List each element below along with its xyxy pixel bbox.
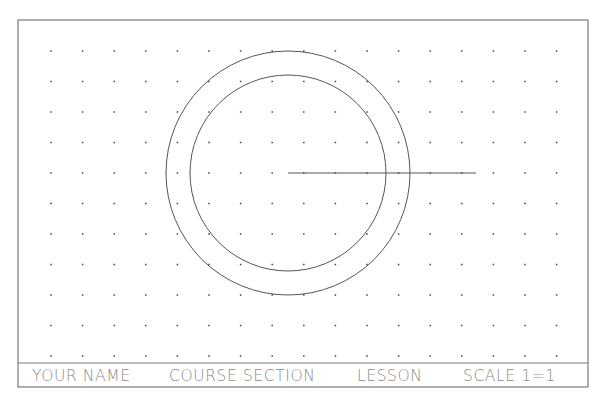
title-field-scale: SCALE 1=1 (463, 367, 556, 385)
grid-dot (524, 203, 526, 205)
grid-dot (271, 325, 273, 327)
grid-dot (556, 172, 558, 174)
grid-dot (82, 294, 84, 296)
grid-dot (524, 264, 526, 266)
grid-dot (398, 203, 400, 205)
grid-dot (556, 50, 558, 52)
grid-dot (493, 355, 495, 357)
grid-dot (145, 142, 147, 144)
grid-dot (145, 294, 147, 296)
grid-dot (177, 325, 179, 327)
grid-dot (303, 233, 305, 235)
grid-dot (50, 142, 52, 144)
grid-dot (271, 233, 273, 235)
grid-dot (240, 294, 242, 296)
grid-dot (429, 81, 431, 83)
grid-dot (335, 203, 337, 205)
grid-dot (303, 111, 305, 113)
grid-dot (50, 203, 52, 205)
grid-dot (461, 325, 463, 327)
grid-dot (493, 233, 495, 235)
grid-dot (524, 172, 526, 174)
grid-dot (177, 355, 179, 357)
grid-dot (113, 172, 115, 174)
grid-dot (50, 264, 52, 266)
grid-dot (335, 142, 337, 144)
grid-dot (556, 355, 558, 357)
grid-dot (524, 325, 526, 327)
grid-dot (366, 355, 368, 357)
grid-dot (177, 81, 179, 83)
grid-dot (335, 264, 337, 266)
grid-dot (113, 264, 115, 266)
grid-dot (50, 172, 52, 174)
grid-dot (145, 233, 147, 235)
grid-dot (398, 355, 400, 357)
grid-dot (145, 203, 147, 205)
grid-dot (208, 294, 210, 296)
grid-dot (145, 325, 147, 327)
grid-dot (556, 325, 558, 327)
grid-dot (556, 142, 558, 144)
grid-dot (493, 50, 495, 52)
grid-dot (493, 203, 495, 205)
grid-dot (208, 233, 210, 235)
grid-dot (113, 50, 115, 52)
grid-dot (177, 233, 179, 235)
grid-dot (50, 233, 52, 235)
grid-dot (240, 172, 242, 174)
grid-dot (429, 325, 431, 327)
grid-dot (335, 325, 337, 327)
grid-dot (493, 81, 495, 83)
grid-dot (335, 111, 337, 113)
grid-dot (240, 81, 242, 83)
grid-dot (461, 50, 463, 52)
grid-dot (82, 50, 84, 52)
grid-dot (208, 203, 210, 205)
grid-dot (493, 142, 495, 144)
grid-dot (177, 294, 179, 296)
grid-dot (177, 203, 179, 205)
grid-dot (50, 111, 52, 113)
grid-dot (429, 294, 431, 296)
grid-dot (208, 172, 210, 174)
grid-dot (398, 50, 400, 52)
grid-dot (177, 264, 179, 266)
grid-dot (398, 264, 400, 266)
grid-dot (335, 355, 337, 357)
grid-dot (366, 50, 368, 52)
grid-dot (177, 172, 179, 174)
grid-dot (366, 325, 368, 327)
grid-dot (113, 111, 115, 113)
grid-dot (493, 264, 495, 266)
grid-dot (177, 111, 179, 113)
grid-dot (524, 294, 526, 296)
sheet-border (18, 20, 588, 387)
grid-dot (493, 172, 495, 174)
grid-dot (208, 142, 210, 144)
grid-dot (303, 142, 305, 144)
grid-dot (429, 50, 431, 52)
grid-dot (271, 203, 273, 205)
grid-dot (303, 81, 305, 83)
grid-dot (366, 111, 368, 113)
grid-dot (271, 142, 273, 144)
grid-dot (145, 355, 147, 357)
grid-dot (145, 50, 147, 52)
cad-drawing-sheet: YOUR NAME COURSE SECTION LESSON SCALE 1=… (0, 0, 605, 406)
grid-dot (524, 142, 526, 144)
grid-dot (556, 111, 558, 113)
grid-dot (398, 294, 400, 296)
grid-dot (82, 111, 84, 113)
grid-dot (461, 111, 463, 113)
grid-dot (303, 355, 305, 357)
grid-dot (429, 111, 431, 113)
grid-dot (398, 81, 400, 83)
grid-dot (524, 81, 526, 83)
grid-dot (398, 325, 400, 327)
grid-dot (113, 325, 115, 327)
grid-dot (524, 233, 526, 235)
grid-dot (524, 111, 526, 113)
grid-dot (556, 81, 558, 83)
grid-dot (82, 142, 84, 144)
